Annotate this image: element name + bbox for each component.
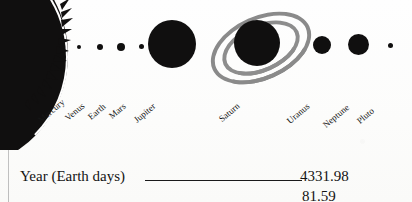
planet-label-pluto: Pluto [355, 106, 376, 126]
planet-label-mars: Mars [107, 101, 128, 121]
planet-saturn-icon [206, 2, 310, 90]
solar-system-figure: Mercury Venus Earth Mars Jupiter Saturn … [0, 0, 412, 202]
planet-mars-icon [139, 44, 144, 49]
leader-line [145, 180, 302, 181]
planet-neptune-icon [348, 34, 369, 55]
planet-uranus-icon [313, 36, 331, 54]
planet-label-uranus: Uranus [285, 101, 312, 126]
sun-disc-icon [0, 0, 74, 150]
planet-label-saturn: Saturn [217, 101, 242, 124]
planet-label-neptune: Neptune [321, 102, 351, 130]
sun-prominences-icon [0, 0, 74, 150]
year-row-label: Year (Earth days) [20, 168, 125, 185]
planet-pluto-icon [388, 43, 393, 48]
planet-earth-icon [117, 43, 125, 51]
year-row-value: 4331.98 [300, 168, 349, 185]
planet-venus-icon [97, 44, 103, 50]
planet-label-jupiter: Jupiter [132, 101, 158, 125]
clipped-next-row-value: 81.59 [302, 191, 336, 202]
planet-label-earth: Earth [86, 101, 108, 122]
planet-jupiter-icon [148, 20, 196, 68]
planet-mercury-icon [77, 45, 81, 49]
clipped-next-row: 81.59 [0, 191, 412, 202]
